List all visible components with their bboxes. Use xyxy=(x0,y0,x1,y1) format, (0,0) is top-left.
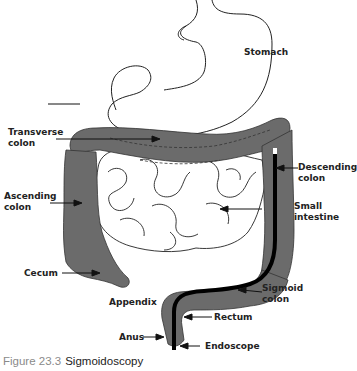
label-rectum: Rectum xyxy=(214,312,252,323)
label-descending-colon: Descending colon xyxy=(298,162,357,184)
sigmoid-colon xyxy=(162,270,288,346)
label-anus: Anus xyxy=(119,332,144,343)
label-endoscope: Endoscope xyxy=(205,341,260,352)
stomach-outline xyxy=(108,0,272,137)
figure-number: Figure 23.3 xyxy=(3,355,61,367)
label-small-intestine: Small intestine xyxy=(294,201,339,223)
small-intestine xyxy=(95,147,266,251)
figure-caption: Figure 23.3Sigmoidoscopy xyxy=(3,355,143,367)
transverse-colon xyxy=(70,118,290,162)
label-transverse-colon: Transverse colon xyxy=(8,127,63,149)
label-ascending-colon: Ascending colon xyxy=(4,191,57,213)
label-appendix: Appendix xyxy=(109,297,157,308)
endoscope-tip xyxy=(273,148,277,154)
label-sigmoid-colon: Sigmoid colon xyxy=(262,283,303,305)
figure-title: Sigmoidoscopy xyxy=(65,355,143,367)
label-stomach: Stomach xyxy=(244,47,288,58)
label-cecum: Cecum xyxy=(24,268,58,279)
